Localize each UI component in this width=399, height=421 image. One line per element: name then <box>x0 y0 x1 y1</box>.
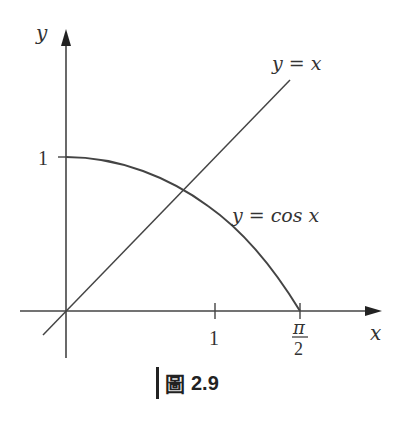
caption-number: 2.9 <box>191 372 219 395</box>
x-tick-label-1: 1 <box>209 327 219 349</box>
figure-caption: 圖 2.9 <box>156 368 219 398</box>
y-axis-arrow-icon <box>61 29 71 46</box>
label-y-equals-cos-x: y = cos x <box>231 204 320 226</box>
x-tick-label-pi: π <box>292 317 306 338</box>
y-tick-label-1: 1 <box>38 147 48 169</box>
curve-cos-x <box>66 157 300 311</box>
x-axis-label: x <box>370 321 381 345</box>
y-axis-label: y <box>35 21 48 45</box>
label-y-equals-x: y = x <box>271 52 322 74</box>
caption-bar <box>156 367 159 399</box>
figure-canvas: y x 1 1 π 2 y = x y = cos x <box>0 0 399 421</box>
x-axis-arrow-icon <box>365 306 382 316</box>
caption-prefix: 圖 <box>165 369 185 398</box>
x-tick-label-2: 2 <box>294 339 303 359</box>
